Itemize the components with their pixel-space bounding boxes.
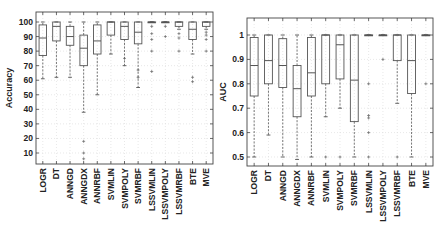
y-tick-label: 100 [19, 17, 33, 27]
y-tick-label: 20 [24, 133, 34, 143]
x-tick-label: LSSVMPOLY [378, 170, 388, 222]
x-tick-label: LOGR [249, 170, 259, 195]
x-tick-label: SVMPOLY [335, 170, 345, 211]
y-tick-label: 40 [24, 104, 34, 114]
x-tick-label: LSSVMPOLY [160, 168, 170, 220]
box-svmlin: SVMLIN [106, 12, 116, 200]
figure: Accuracy AUC 102030405060708090100Accura… [0, 0, 447, 229]
x-tick-label: ANNRBF [92, 168, 102, 204]
box-lssvmpoly: LSSVMPOLY [160, 12, 170, 220]
x-tick-label: BTE [407, 170, 417, 187]
y-tick-label: 0.5 [232, 152, 244, 162]
plot-frame [247, 18, 433, 166]
y-tick-label: 30 [24, 119, 34, 129]
box-logr: LOGR [249, 18, 259, 195]
x-tick-label: SVMRBF [349, 170, 359, 206]
y-tick-label: 90 [24, 32, 34, 42]
box-svmpoly: SVMPOLY [120, 12, 130, 209]
x-tick-label: MVE [201, 168, 211, 187]
x-tick-label: MVE [421, 170, 431, 189]
y-tick-label: 50 [24, 90, 34, 100]
x-tick-label: ANNGDX [292, 170, 302, 207]
grid [247, 18, 433, 166]
x-tick-label: ANNGD [65, 168, 75, 199]
y-tick-label: 80 [24, 46, 34, 56]
box-annrbf: ANNRBF [92, 12, 102, 204]
accuracy-panel: 102030405060708090100AccuracyLOGRDTANNGD… [4, 12, 213, 220]
box-lssvmlin: LSSVMLIN [364, 18, 374, 213]
box-anngdx: ANNGDX [292, 18, 302, 207]
y-tick-label: 0.9 [232, 54, 244, 64]
x-tick-label: LSSVMLIN [364, 170, 374, 213]
box-annrbf: ANNRBF [306, 18, 316, 206]
x-tick-label: ANNGD [278, 170, 288, 201]
y-tick-label: 60 [24, 75, 34, 85]
box-bte: BTE [407, 18, 417, 187]
box-dt: DT [51, 12, 61, 179]
auc-panel: 0.50.60.70.80.91AUCLOGRDTANNGDANNGDXANNR… [218, 18, 433, 222]
x-tick-label: LOGR [38, 168, 48, 193]
box-anngdx: ANNGDX [79, 12, 89, 205]
box-svmrbf: SVMRBF [133, 12, 143, 204]
grid [36, 12, 213, 164]
boxplot-figure: 102030405060708090100AccuracyLOGRDTANNGD… [0, 0, 447, 229]
y-tick-label: 70 [24, 61, 34, 71]
x-tick-label: SVMLIN [106, 168, 116, 200]
x-tick-label: ANNGDX [79, 168, 89, 205]
y-tick-label: 0.8 [232, 79, 244, 89]
x-tick-label: BTE [188, 168, 198, 185]
x-tick-label: DT [51, 167, 61, 179]
x-tick-label: ANNRBF [306, 170, 316, 206]
x-tick-label: LSSVMRBF [174, 168, 184, 215]
y-tick-label: 1 [239, 30, 244, 40]
y-tick-label: 10 [24, 148, 34, 158]
x-tick-label: DT [263, 169, 273, 181]
x-tick-label: SVMRBF [133, 168, 143, 204]
y-tick-label: 0.6 [232, 128, 244, 138]
y-tick-label: 0.7 [232, 103, 244, 113]
x-tick-label: SVMPOLY [120, 168, 130, 209]
y-axis-label: AUC [218, 82, 228, 102]
x-tick-label: LSSVMLIN [147, 168, 157, 211]
y-axis-label: Accuracy [4, 68, 14, 109]
x-tick-label: SVMLIN [321, 170, 331, 202]
x-tick-label: LSSVMRBF [392, 170, 402, 217]
